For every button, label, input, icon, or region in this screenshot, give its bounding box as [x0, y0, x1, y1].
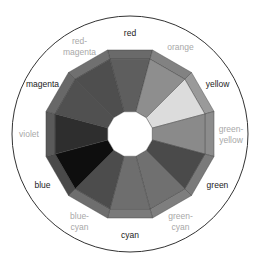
- label-line: yellow: [219, 135, 243, 145]
- label-line: green-: [219, 124, 244, 134]
- label-magenta: magenta: [26, 79, 59, 89]
- label-blue: blue: [34, 180, 50, 190]
- label-line: cyan: [172, 222, 190, 232]
- label-red: red: [124, 28, 137, 38]
- label-green-yellow: green-yellow: [219, 124, 244, 145]
- label-yellow: yellow: [206, 79, 230, 89]
- label-line: yellow: [206, 79, 230, 89]
- label-green-cyan: green-cyan: [168, 211, 193, 232]
- label-line: magenta: [26, 79, 59, 89]
- label-line: cyan: [71, 222, 89, 232]
- color-wheel-diagram: redorangeyellowgreen-yellowgreengreen-cy…: [0, 0, 257, 267]
- label-blue-cyan: blue-cyan: [70, 211, 89, 232]
- label-line: blue-: [70, 211, 89, 221]
- label-line: green: [207, 180, 229, 190]
- label-line: red-: [72, 36, 87, 46]
- label-orange: orange: [167, 42, 194, 52]
- center-hole: [108, 112, 152, 156]
- label-line: blue: [34, 180, 50, 190]
- label-line: red: [124, 28, 137, 38]
- label-cyan: cyan: [121, 230, 139, 240]
- label-red-magenta: red-magenta: [63, 36, 96, 57]
- band-green-yellow: [205, 111, 214, 156]
- label-line: cyan: [121, 230, 139, 240]
- band-violet: [46, 111, 55, 156]
- band-cyan: [107, 209, 152, 218]
- label-green: green: [207, 180, 229, 190]
- label-line: magenta: [63, 47, 96, 57]
- label-line: green-: [168, 211, 193, 221]
- label-violet: violet: [19, 129, 39, 139]
- label-line: orange: [167, 42, 194, 52]
- band-red: [107, 50, 152, 59]
- label-line: violet: [19, 129, 39, 139]
